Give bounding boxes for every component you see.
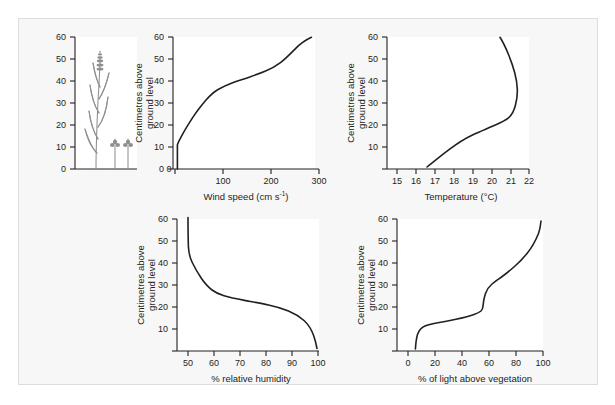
wind-xlabel-end: ) bbox=[285, 191, 288, 202]
temp-xticklabel-22: 22 bbox=[524, 176, 534, 186]
temp-xticklabel-17: 17 bbox=[430, 176, 440, 186]
light-panel: 10 20 30 40 50 60 0 20 40 60 80 100 Cent… bbox=[349, 209, 564, 384]
light-ylabel-line1: Centimetres above bbox=[355, 245, 366, 325]
wind-ylabel-line2: ground level bbox=[144, 77, 155, 129]
vegetation-yticklabel-10: 10 bbox=[56, 142, 66, 152]
temp-yticklabel-30: 30 bbox=[368, 98, 378, 108]
vegetation-yticklabel-40: 40 bbox=[56, 76, 66, 86]
figure-panel: 0 10 20 30 40 50 60 bbox=[18, 18, 598, 385]
light-xticklabel-0: 0 bbox=[405, 358, 410, 368]
relative-humidity-panel: 10 20 30 40 50 60 50 60 70 80 90 100 Cen… bbox=[129, 209, 334, 384]
wind-xlabel-main: Wind speed (cm s bbox=[204, 191, 280, 202]
humidity-plot-background bbox=[177, 219, 319, 351]
temp-xticklabel-16: 16 bbox=[411, 176, 421, 186]
vegetation-yticklabel-50: 50 bbox=[56, 54, 66, 64]
humidity-ylabel-line2: ground level bbox=[146, 259, 157, 311]
wind-plot-background bbox=[173, 37, 315, 169]
temperature-chart: 10 20 30 40 50 60 15 16 17 18 19 20 21 2… bbox=[339, 27, 544, 207]
light-yticklabel-40: 40 bbox=[378, 258, 388, 268]
wind-xticklabel-300: 300 bbox=[311, 176, 326, 186]
wind-xticklabel-100: 100 bbox=[215, 176, 230, 186]
temp-xticklabel-18: 18 bbox=[449, 176, 459, 186]
humidity-xticklabel-90: 90 bbox=[287, 358, 297, 368]
temp-ylabel-line2: ground level bbox=[356, 77, 367, 129]
light-chart: 10 20 30 40 50 60 0 20 40 60 80 100 Cent… bbox=[349, 209, 564, 384]
humidity-xticklabel-80: 80 bbox=[261, 358, 271, 368]
temp-xticklabel-21: 21 bbox=[506, 176, 516, 186]
vegetation-yticklabel-30: 30 bbox=[56, 98, 66, 108]
temp-xticklabel-19: 19 bbox=[468, 176, 478, 186]
light-xlabel: % of light above vegetation bbox=[418, 373, 532, 384]
light-yticklabel-60: 60 bbox=[378, 214, 388, 224]
vegetation-yticklabel-60: 60 bbox=[56, 32, 66, 42]
temp-xlabel: Temperature (°C) bbox=[425, 191, 498, 202]
humidity-yticklabel-60: 60 bbox=[158, 214, 168, 224]
wind-speed-chart: 0 10 20 30 40 50 60 0 100 200 300 Centim… bbox=[129, 27, 329, 207]
humidity-xticklabel-70: 70 bbox=[235, 358, 245, 368]
light-xticklabel-60: 60 bbox=[484, 358, 494, 368]
light-xticklabel-40: 40 bbox=[457, 358, 467, 368]
wind-yticklabel-0: 0 bbox=[159, 164, 164, 174]
light-yticklabel-30: 30 bbox=[378, 280, 388, 290]
temp-plot-background bbox=[387, 37, 529, 169]
humidity-ylabel-line1: Centimetres above bbox=[135, 245, 146, 325]
humidity-yticklabel-10: 10 bbox=[158, 324, 168, 334]
wind-yticklabel-60: 60 bbox=[154, 32, 164, 42]
wind-xticklabel-200: 200 bbox=[263, 176, 278, 186]
wind-yticklabel-40: 40 bbox=[154, 76, 164, 86]
temp-xticklabel-20: 20 bbox=[487, 176, 497, 186]
wind-speed-panel: 0 10 20 30 40 50 60 0 100 200 300 Centim… bbox=[129, 27, 329, 207]
temp-yticklabel-10: 10 bbox=[368, 142, 378, 152]
light-yticklabel-20: 20 bbox=[378, 302, 388, 312]
wind-yticklabel-20: 20 bbox=[154, 120, 164, 130]
light-xticklabel-80: 80 bbox=[511, 358, 521, 368]
humidity-xticklabel-60: 60 bbox=[209, 358, 219, 368]
wind-xticklabel-0: 0 bbox=[166, 164, 171, 174]
temp-yticklabel-40: 40 bbox=[368, 76, 378, 86]
vegetation-yticklabel-20: 20 bbox=[56, 120, 66, 130]
light-ylabel-line2: ground level bbox=[366, 259, 377, 311]
light-xticklabel-100: 100 bbox=[535, 358, 550, 368]
humidity-chart: 10 20 30 40 50 60 50 60 70 80 90 100 Cen… bbox=[129, 209, 334, 384]
humidity-yticklabel-50: 50 bbox=[158, 236, 168, 246]
humidity-yticklabel-40: 40 bbox=[158, 258, 168, 268]
wind-yticklabel-50: 50 bbox=[154, 54, 164, 64]
light-xticklabel-20: 20 bbox=[430, 358, 440, 368]
light-yticklabel-50: 50 bbox=[378, 236, 388, 246]
humidity-xlabel: % relative humidity bbox=[211, 373, 291, 384]
wind-yticklabel-10: 10 bbox=[154, 142, 164, 152]
temp-yticklabel-50: 50 bbox=[368, 54, 378, 64]
temp-yticklabel-20: 20 bbox=[368, 120, 378, 130]
wind-ylabel-line1: Centimetres above bbox=[133, 63, 144, 143]
light-yticklabel-10: 10 bbox=[378, 324, 388, 334]
wind-xlabel: Wind speed (cm s-1) bbox=[204, 190, 289, 202]
temperature-panel: 10 20 30 40 50 60 15 16 17 18 19 20 21 2… bbox=[339, 27, 544, 207]
temp-yticklabel-60: 60 bbox=[368, 32, 378, 42]
humidity-yticklabel-20: 20 bbox=[158, 302, 168, 312]
humidity-xticklabel-50: 50 bbox=[183, 358, 193, 368]
temp-xticklabel-15: 15 bbox=[392, 176, 402, 186]
vegetation-yticklabel-0: 0 bbox=[61, 164, 66, 174]
temp-ylabel-line1: Centimetres above bbox=[345, 63, 356, 143]
wind-yticklabel-30: 30 bbox=[154, 98, 164, 108]
humidity-xticklabel-100: 100 bbox=[310, 358, 325, 368]
humidity-yticklabel-30: 30 bbox=[158, 280, 168, 290]
